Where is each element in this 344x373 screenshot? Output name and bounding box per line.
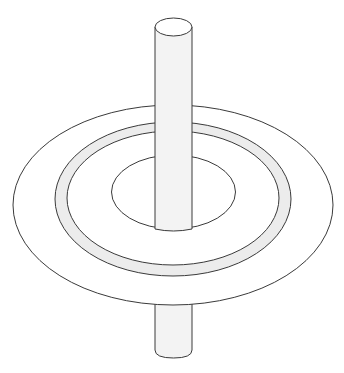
- rod-through-disk-diagram: [0, 0, 344, 373]
- rod-top: [155, 18, 192, 231]
- diagram-canvas: [0, 0, 344, 373]
- rod-bottom: [155, 300, 192, 358]
- rod-top-cap: [155, 18, 192, 36]
